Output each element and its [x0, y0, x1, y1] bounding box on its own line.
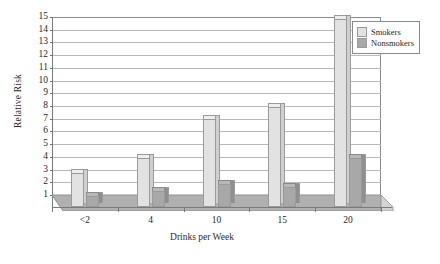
relative-risk-bar-chart: Relative Risk 123456789101112131415 <241… [0, 0, 440, 264]
y-axis-tick-label: 11 [39, 63, 48, 73]
y-axis-tick-label: 9 [43, 88, 48, 98]
plot-area [52, 17, 381, 207]
bar-smokers [137, 158, 150, 207]
legend-item-nonsmokers: Nonsmokers [357, 38, 414, 48]
y-axis-tick-label: 10 [39, 76, 49, 86]
bar-front-face [334, 19, 347, 207]
x-axis-tick [118, 207, 119, 212]
bar-side-face [231, 180, 235, 203]
bar-nonsmokers [152, 191, 165, 207]
legend-item-smokers: Smokers [357, 27, 414, 37]
bar-top-face [349, 154, 362, 158]
bar-top-face [203, 115, 216, 119]
y-axis-tick-label: 13 [39, 37, 49, 47]
bar-front-face [283, 187, 296, 207]
x-axis-tick [249, 207, 250, 212]
x-axis-tick [52, 207, 53, 212]
bar-front-face [152, 191, 165, 207]
bar-top-face [268, 103, 281, 107]
y-axis-labels: 123456789101112131415 [28, 0, 50, 264]
y-axis-tick-label: 7 [43, 114, 48, 124]
bar-front-face [218, 184, 231, 207]
legend-label-smokers: Smokers [371, 27, 401, 37]
bar-smokers [71, 173, 84, 207]
bar-nonsmokers [349, 158, 362, 207]
bar-nonsmokers [283, 187, 296, 207]
y-axis-tick-label: 8 [43, 101, 48, 111]
x-axis-tick-label: 20 [343, 214, 353, 226]
bar-front-face [349, 158, 362, 207]
bar-side-face [99, 192, 103, 203]
x-axis-title: Drinks per Week [52, 232, 352, 242]
bar-front-face [71, 173, 84, 207]
x-axis-ticks [52, 207, 392, 213]
y-axis-tick-label: 14 [39, 25, 49, 35]
legend-label-nonsmokers: Nonsmokers [371, 38, 414, 48]
bar-top-face [283, 183, 296, 187]
bar-group [137, 17, 165, 207]
bar-group [203, 17, 231, 207]
x-axis-labels: <24101520 [52, 214, 392, 230]
bar-top-face [334, 15, 347, 19]
x-axis-tick [315, 207, 316, 212]
bar-side-face [362, 154, 366, 203]
bar-top-face [152, 187, 165, 191]
y-axis-tick-label: 15 [39, 12, 49, 22]
bars-layer [52, 17, 381, 207]
bar-top-face [137, 154, 150, 158]
bar-smokers [203, 119, 216, 207]
legend-swatch-icon-smokers [357, 27, 367, 37]
x-axis-tick [381, 207, 382, 212]
y-axis-tick-label: 6 [43, 126, 48, 136]
bar-nonsmokers [86, 196, 99, 207]
bar-group [71, 17, 99, 207]
x-axis-tick-label: 15 [278, 214, 288, 226]
x-axis-tick-label: 4 [148, 214, 153, 226]
y-axis-tick-label: 12 [39, 50, 49, 60]
bar-top-face [71, 169, 84, 173]
chart-legend: Smokers Nonsmokers [352, 21, 420, 54]
y-axis-tick-label: 1 [43, 190, 48, 200]
bar-group [268, 17, 296, 207]
x-axis-tick [184, 207, 185, 212]
y-axis-tick-label: 3 [43, 165, 48, 175]
bar-smokers [268, 107, 281, 207]
bar-top-face [218, 180, 231, 184]
y-axis-tick-label: 5 [43, 139, 48, 149]
bar-nonsmokers [218, 184, 231, 207]
x-axis-tick-label: <2 [80, 214, 90, 226]
bar-side-face [296, 183, 300, 203]
legend-swatch-icon-nonsmokers [357, 38, 367, 48]
bar-top-face [86, 192, 99, 196]
bar-front-face [86, 196, 99, 207]
y-axis-tick-label: 2 [43, 177, 48, 187]
bar-front-face [268, 107, 281, 207]
bar-side-face [165, 187, 169, 203]
y-axis-tick-label: 4 [43, 152, 48, 162]
x-axis-tick-label: 10 [212, 214, 222, 226]
bar-smokers [334, 19, 347, 207]
y-axis-title: Relative Risk [13, 53, 23, 149]
bar-front-face [203, 119, 216, 207]
bar-front-face [137, 158, 150, 207]
